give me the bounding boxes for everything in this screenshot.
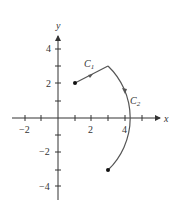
end-point (106, 168, 110, 172)
diagram: −2 2 4 x 4 2 −2 −4 y C1 C2 (0, 0, 180, 209)
x-tick-label: −2 (19, 124, 30, 135)
y-axis: 4 2 −2 −4 y (39, 20, 61, 200)
y-tick-label: −4 (39, 181, 50, 192)
direction-arrow-icon (88, 74, 93, 78)
y-tick-label: 2 (46, 78, 51, 89)
c1-label: C1 (84, 58, 94, 71)
x-axis-label: x (163, 113, 169, 124)
curve-c1: C1 (75, 58, 108, 83)
y-axis-label: y (55, 20, 61, 31)
x-tick-label: 4 (122, 124, 127, 135)
y-tick-label: 4 (46, 43, 51, 54)
start-point (73, 81, 77, 85)
x-axis: −2 2 4 x (12, 113, 169, 135)
x-tick-label: 2 (88, 124, 93, 135)
y-tick-label: −2 (39, 146, 50, 157)
c2-label: C2 (130, 95, 141, 108)
